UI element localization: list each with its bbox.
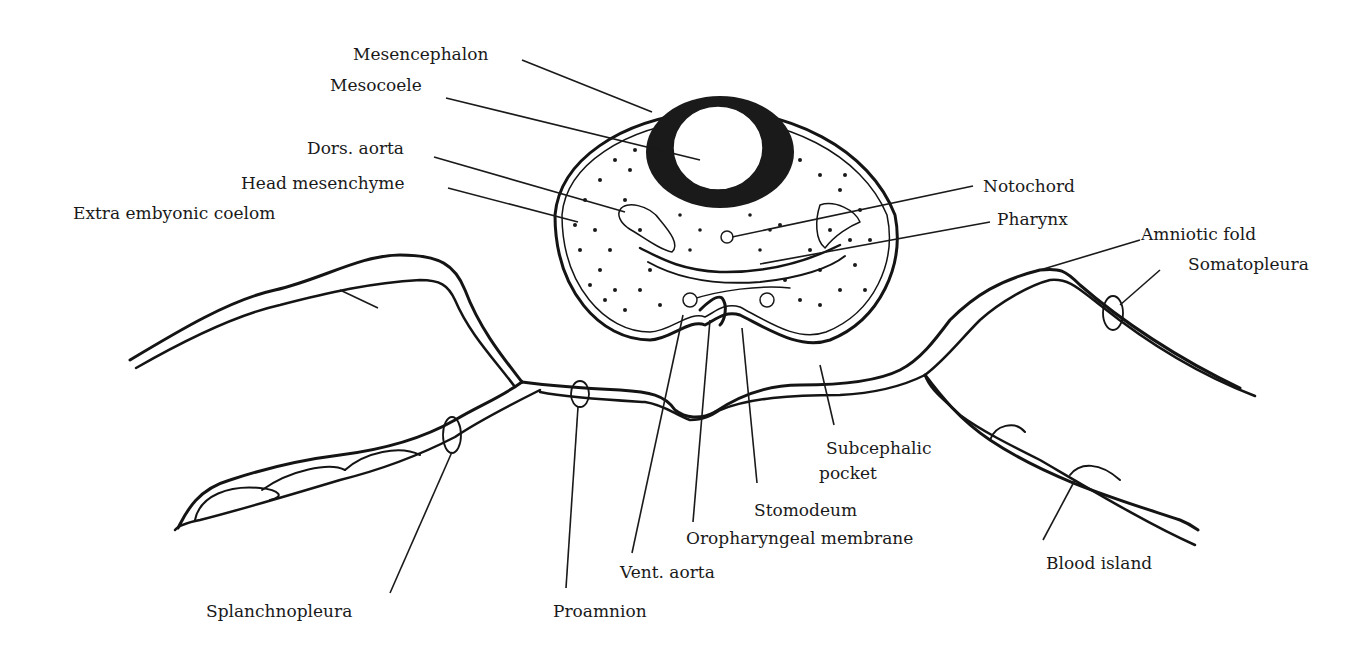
label-oropharyngeal-membrane: Oropharyngeal membrane: [686, 528, 913, 548]
mesocoele-lumen: [673, 106, 763, 190]
notochord: [721, 231, 733, 243]
embryo-head-section: [555, 96, 897, 343]
label-splanchnopleura: Splanchnopleura: [206, 601, 352, 621]
label-proamnion: Proamnion: [553, 601, 647, 621]
label-subcephalic-pocket-line2: pocket: [819, 463, 877, 483]
label-extra-embryonic-coelom: Extra embyonic coelom: [73, 203, 275, 223]
label-blood-island: Blood island: [1046, 553, 1152, 573]
label-head-mesenchyme: Head mesenchyme: [241, 173, 404, 193]
label-dors-aorta: Dors. aorta: [307, 138, 404, 158]
label-amniotic-fold: Amniotic fold: [1141, 224, 1256, 244]
proamnion-marker: [571, 381, 589, 407]
left-membranes: [130, 255, 720, 530]
label-mesocoele: Mesocoele: [330, 75, 422, 95]
label-stomodeum: Stomodeum: [754, 500, 857, 520]
ventral-aorta-right: [760, 293, 774, 307]
label-vent-aorta: Vent. aorta: [620, 562, 715, 582]
label-subcephalic-pocket-line1: Subcephalic: [826, 438, 931, 458]
label-notochord: Notochord: [983, 176, 1075, 196]
label-pharynx: Pharynx: [997, 209, 1068, 229]
label-somatopleura: Somatopleura: [1188, 254, 1309, 274]
dorsal-aorta-right: [817, 204, 860, 248]
ventral-aorta-left: [683, 293, 697, 307]
label-mesencephalon: Mesencephalon: [353, 44, 488, 64]
embryo-cross-section-diagram: Mesencephalon Mesocoele Dors. aorta Head…: [0, 0, 1359, 668]
dorsal-aorta-left: [619, 205, 675, 252]
